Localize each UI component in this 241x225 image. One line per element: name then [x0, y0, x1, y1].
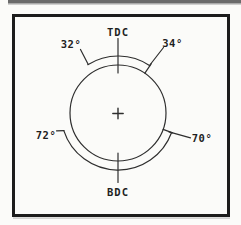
tdc-label: TDC — [107, 26, 129, 38]
scanned-page: TDC BDC 32° 34° 72° 70° — [0, 0, 241, 225]
page-rule-bar — [8, 0, 241, 4]
page-rule-bar-shadow — [8, 4, 241, 5]
bdc-label: BDC — [107, 186, 129, 198]
angle-label-upper-right: 34° — [162, 37, 182, 49]
frame-shadow — [13, 217, 230, 218]
timing-diagram: TDC BDC 32° 34° 72° 70° — [0, 0, 241, 225]
angle-label-upper-left: 32° — [61, 38, 81, 50]
angle-label-lower-right: 70° — [192, 132, 212, 144]
angle-label-lower-left: 72° — [36, 129, 56, 141]
